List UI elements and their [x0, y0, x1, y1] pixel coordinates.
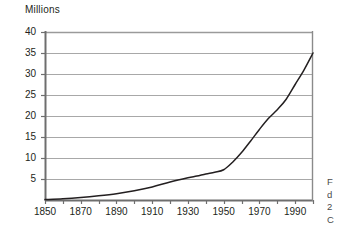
- x-tick-label: 1910: [132, 206, 172, 217]
- x-tick-label: 1950: [204, 206, 244, 217]
- x-tick-label: 1870: [61, 206, 101, 217]
- y-tick-label: 40: [12, 26, 36, 37]
- y-tick-label: 25: [12, 89, 36, 100]
- y-tick-label: 35: [12, 47, 36, 58]
- margin-text-line-2: d: [327, 189, 341, 202]
- margin-text-line-1: F: [327, 176, 341, 189]
- y-tick-label: 10: [12, 152, 36, 163]
- x-tick-label: 1890: [96, 206, 136, 217]
- x-tick-label: 1990: [275, 206, 315, 217]
- page-margin-text: F d 2 C: [327, 176, 341, 226]
- y-tick-label: 5: [12, 173, 36, 184]
- chart-figure: Millions 403530252015105 185018701890191…: [0, 0, 341, 248]
- margin-text-line-4: C: [327, 214, 341, 227]
- margin-text-line-3: 2: [327, 201, 341, 214]
- y-tick-label: 30: [12, 68, 36, 79]
- x-tick-label: 1850: [25, 206, 65, 217]
- y-axis-ticks: [41, 33, 45, 180]
- gridlines: [45, 33, 313, 180]
- y-tick-label: 20: [12, 110, 36, 121]
- x-tick-label: 1970: [239, 206, 279, 217]
- y-tick-label: 15: [12, 131, 36, 142]
- x-tick-label: 1930: [168, 206, 208, 217]
